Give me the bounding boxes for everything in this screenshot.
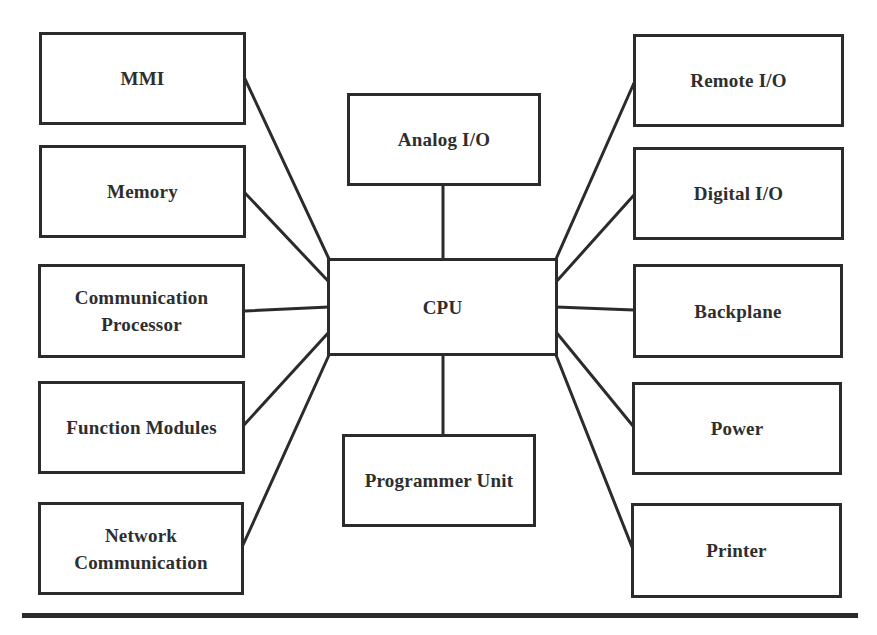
box-printer: Printer — [631, 503, 842, 598]
box-label: Memory — [107, 178, 178, 205]
box-communication-processor: Communication Processor — [38, 264, 245, 358]
box-label: Backplane — [694, 298, 781, 325]
box-digital-io: Digital I/O — [633, 147, 844, 240]
cpu-architecture-diagram: MMI Memory Communication Processor Funct… — [0, 0, 877, 635]
box-label: Power — [711, 415, 764, 442]
box-programmer-unit: Programmer Unit — [342, 434, 536, 527]
box-label: Digital I/O — [694, 180, 783, 207]
box-analog-io: Analog I/O — [347, 93, 541, 186]
connector-communication-processor-cpu — [245, 307, 329, 311]
box-cpu: CPU — [327, 258, 558, 356]
box-label: Function Modules — [66, 414, 216, 441]
box-mmi: MMI — [39, 32, 246, 125]
connector-network-communication-cpu — [243, 355, 329, 545]
box-label: Programmer Unit — [365, 467, 513, 494]
connector-power-cpu — [556, 332, 633, 426]
connector-function-modules-cpu — [244, 332, 329, 425]
connector-printer-cpu — [556, 355, 632, 547]
box-label: MMI — [121, 65, 165, 92]
box-power: Power — [632, 382, 842, 475]
box-label: Printer — [706, 537, 766, 564]
box-label: CPU — [423, 294, 463, 321]
box-label: Communication Processor — [75, 284, 209, 338]
box-label: Network Communication — [74, 522, 208, 576]
box-function-modules: Function Modules — [38, 381, 245, 474]
connector-mmi-cpu — [245, 79, 329, 259]
bottom-divider-rule — [22, 613, 858, 618]
connector-digital-io-cpu — [556, 195, 634, 282]
connector-remote-io-cpu — [556, 83, 634, 259]
box-remote-io: Remote I/O — [633, 34, 844, 127]
connector-backplane-cpu — [556, 307, 634, 310]
box-label: Remote I/O — [690, 67, 786, 94]
box-backplane: Backplane — [633, 264, 843, 358]
box-network-communication: Network Communication — [38, 502, 244, 595]
box-label: Analog I/O — [398, 126, 490, 153]
box-memory: Memory — [39, 145, 246, 238]
connector-memory-cpu — [245, 193, 329, 282]
